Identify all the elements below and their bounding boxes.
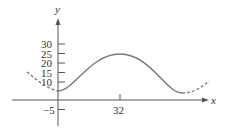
y-axis-arrow-icon [56,18,61,25]
y-tick-neg5: −5 [43,104,55,116]
curve-dashed-right [182,81,209,93]
y-tick-10: 10 [41,76,53,88]
x-axis-arrow-icon [202,98,209,103]
chart: x y 30 25 20 15 10 −5 32 [0,0,233,137]
curve-solid [58,54,182,93]
x-tick-label-32: 32 [113,104,124,116]
x-axis-label: x [210,94,216,106]
y-axis-label: y [54,3,60,15]
